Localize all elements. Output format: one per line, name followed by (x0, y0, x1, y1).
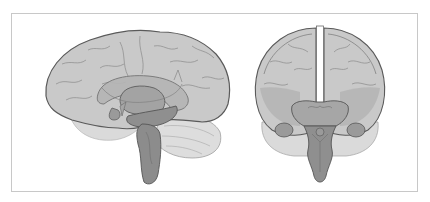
longitudinal-fissure (317, 26, 324, 104)
right-hippocampus (347, 123, 365, 137)
brain-coronal-illustration (250, 22, 390, 192)
basal-ganglia (292, 101, 349, 126)
brain-sagittal-illustration (42, 24, 242, 189)
brain-coronal-view: Frontal/coronal view (250, 22, 390, 192)
brainstem (137, 124, 161, 184)
figure-frame: Lateral/sagittal view (11, 13, 418, 192)
left-hippocampus (275, 123, 293, 137)
brain-sagittal-view: Lateral/sagittal view (42, 24, 242, 189)
